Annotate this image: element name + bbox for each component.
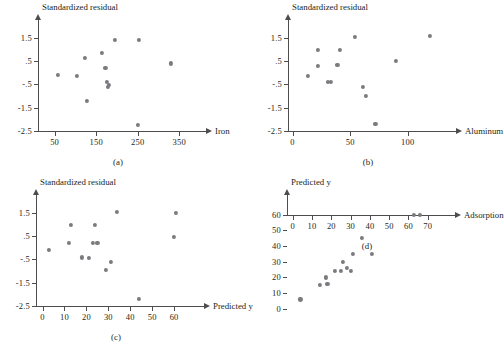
data-point (333, 269, 337, 273)
x-tick-d-0 (293, 216, 294, 220)
x-tick-d-4 (370, 216, 371, 220)
y-tick-d-4 (283, 246, 287, 247)
data-point (418, 213, 422, 217)
data-point (323, 275, 327, 279)
y-tick-label-d-2: 20 (257, 272, 281, 282)
y-tick-d-2 (283, 277, 287, 278)
x-axis-label-d: Adsorption (464, 210, 504, 220)
y-tick-label-d-1: 10 (257, 288, 281, 298)
data-point (339, 269, 343, 273)
y-tick-label-d-4: 40 (257, 241, 281, 251)
x-tick-label-d-2: 20 (327, 221, 336, 231)
x-tick-d-1 (312, 216, 313, 220)
x-tick-d-6 (408, 216, 409, 220)
x-tick-label-d-3: 30 (346, 221, 355, 231)
x-tick-label-d-0: 0 (291, 221, 295, 231)
y-axis-d (287, 195, 288, 215)
data-point (350, 252, 354, 256)
y-tick-label-d-6: 60 (257, 210, 281, 220)
x-tick-label-d-7: 70 (423, 221, 432, 231)
y-tick-label-d-5: 50 (257, 225, 281, 235)
x-tick-label-d-6: 60 (404, 221, 413, 231)
data-point (318, 283, 322, 287)
data-point (349, 269, 353, 273)
y-tick-d-5 (283, 230, 287, 231)
x-tick-d-5 (389, 216, 390, 220)
y-axis-arrow-d (284, 189, 290, 195)
x-tick-label-d-5: 50 (385, 221, 394, 231)
x-tick-d-2 (331, 216, 332, 220)
data-point (341, 260, 345, 264)
x-tick-d-7 (428, 216, 429, 220)
y-tick-label-d-0: 0 (257, 304, 281, 314)
x-tick-label-d-1: 10 (308, 221, 317, 231)
y-axis-label-d: Predicted y (291, 177, 331, 187)
y-tick-d-0 (283, 309, 287, 310)
data-point (360, 236, 364, 240)
y-tick-d-6 (283, 215, 287, 216)
x-axis-arrow-d (455, 212, 461, 218)
panel-caption-d: (d) (362, 241, 372, 251)
x-tick-d-3 (351, 216, 352, 220)
y-tick-label-d-3: 30 (257, 257, 281, 267)
data-point (370, 252, 374, 256)
x-tick-label-d-4: 40 (365, 221, 374, 231)
y-tick-d-3 (283, 262, 287, 263)
data-point (298, 297, 302, 301)
y-tick-d-1 (283, 293, 287, 294)
data-point (325, 282, 329, 286)
data-point (412, 213, 416, 217)
